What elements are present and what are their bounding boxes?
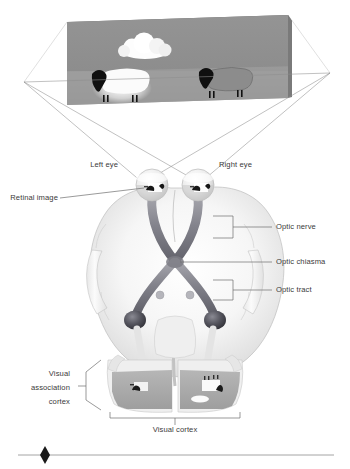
label-visual-association-cortex-line2: association [6,383,70,393]
label-optic-nerve: Optic nerve [276,222,350,232]
label-retinal-image: Retinal image [0,193,58,203]
mammillary-body-right [186,291,194,299]
panel-side-bevel [288,15,292,98]
label-visual-association-cortex-line3: cortex [6,397,70,407]
sheep-white [92,69,152,105]
scene-panel [60,15,295,110]
footer-rule [18,446,334,464]
label-optic-tract: Optic tract [276,285,350,295]
right-eye [182,169,214,201]
mammillary-body-left [156,291,164,299]
brainstem [154,316,195,358]
label-visual-association-cortex-line1: Visual [6,369,70,379]
left-eye [136,169,168,201]
label-visual-cortex: Visual cortex [135,425,215,435]
cortex-band-left [110,370,172,412]
label-right-eye: Right eye [219,160,289,170]
cortex-band-right [178,370,240,412]
label-left-eye: Left eye [58,160,118,170]
label-optic-chiasma: Optic chiasma [276,257,350,267]
diamond-bullet-icon [40,446,50,464]
